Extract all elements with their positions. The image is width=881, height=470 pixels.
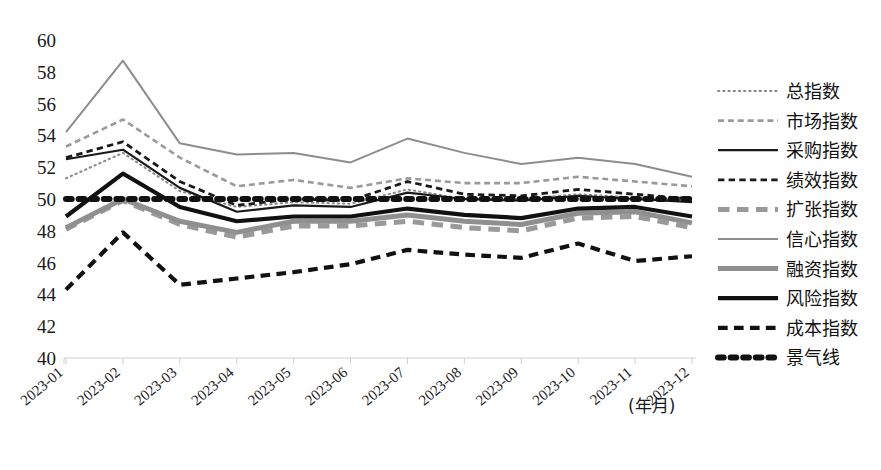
x-axis-tick-label: 2023-08 — [416, 364, 465, 408]
y-axis-tick-label: 60 — [37, 30, 56, 51]
y-axis-tick-label: 54 — [37, 125, 57, 146]
legend-item-label[interactable]: 风险指数 — [786, 288, 858, 309]
y-axis-tick-label: 44 — [37, 284, 57, 305]
series-line-1 — [66, 120, 692, 188]
y-axis-tick-label: 52 — [37, 157, 56, 178]
y-axis-tick-label: 48 — [37, 221, 56, 242]
x-axis-tick-label: 2023-04 — [188, 364, 237, 409]
x-axis-tick-label: 2023-09 — [473, 364, 522, 408]
legend-item-label[interactable]: 市场指数 — [786, 111, 858, 132]
x-axis-tick-labels: 2023-012023-022023-032023-042023-052023-… — [17, 364, 692, 409]
x-axis-tick-label: 2023-07 — [359, 364, 408, 409]
legend-item-label[interactable]: 采购指数 — [786, 140, 858, 161]
x-axis-tick-label: 2023-02 — [74, 364, 123, 408]
y-axis-tick-label: 56 — [37, 94, 56, 115]
y-axis-tick-labels: 6058565452504846444240 — [37, 30, 57, 369]
x-axis-unit-label: (年月) — [628, 396, 675, 416]
legend-item-label[interactable]: 总指数 — [786, 81, 840, 102]
y-axis-tick-label: 50 — [37, 189, 56, 210]
x-axis-tick-label: 2023-10 — [530, 364, 579, 408]
axis-group — [64, 358, 696, 364]
legend-item-label[interactable]: 融资指数 — [786, 259, 858, 280]
series-line-5 — [66, 61, 692, 177]
line-chart-plot: 6058565452504846444240 2023-012023-02202… — [0, 0, 881, 470]
x-axis-tick-label: 2023-01 — [17, 364, 66, 408]
legend-item-label[interactable]: 成本指数 — [786, 318, 858, 339]
x-axis-tick-label: 2023-06 — [302, 364, 351, 409]
chart-container: 6058565452504846444240 2023-012023-02202… — [0, 0, 881, 470]
x-axis-unit-label-group: (年月) — [628, 396, 675, 416]
data-series-group — [66, 61, 692, 290]
legend-item-label[interactable]: 绩效指数 — [786, 170, 858, 191]
chart-legend: 总指数市场指数采购指数绩效指数扩张指数信心指数融资指数风险指数成本指数景气线 — [718, 81, 858, 368]
y-axis-tick-label: 42 — [37, 316, 56, 337]
x-axis-tick-label: 2023-03 — [131, 364, 180, 408]
y-axis-tick-label: 58 — [37, 62, 56, 83]
series-line-8 — [66, 232, 692, 289]
legend-item-label[interactable]: 信心指数 — [786, 229, 858, 250]
legend-item-label[interactable]: 景气线 — [786, 347, 840, 368]
legend-item-label[interactable]: 扩张指数 — [786, 199, 858, 220]
x-axis-tick-label: 2023-05 — [245, 364, 294, 408]
y-axis-tick-label: 46 — [37, 253, 56, 274]
series-line-6 — [66, 199, 692, 232]
